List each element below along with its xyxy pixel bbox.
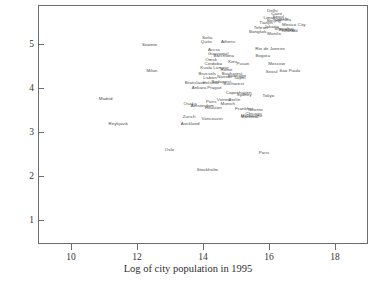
y-axis-tick-label: 4: [20, 83, 34, 93]
data-point-label: Milan: [146, 69, 157, 73]
data-point-label: Auckland: [181, 121, 200, 125]
data-point-label: Zurich: [183, 115, 196, 119]
data-point-label: Soweto: [142, 43, 157, 47]
data-point-label: Taipei: [234, 76, 246, 80]
data-point-label: Tokyo: [262, 94, 274, 98]
y-axis-tick-label: 3: [20, 127, 34, 137]
x-axis-tick-label: 12: [122, 252, 152, 262]
plot-data-area: DelhiCairoSeoulLimaKarachiBeijingCalcutt…: [39, 6, 367, 243]
y-axis-tick: [38, 132, 44, 133]
scatter-plot-figure: DelhiCairoSeoulLimaKarachiBeijingCalcutt…: [0, 0, 376, 282]
data-point-label: Madrid: [99, 97, 113, 101]
data-point-label: Sao Paulo: [279, 69, 300, 73]
x-axis-tick-label: 16: [254, 252, 284, 262]
data-point-label: Bucharest: [223, 82, 244, 86]
data-point-label: Moscow: [268, 62, 285, 66]
plot-frame: DelhiCairoSeoulLimaKarachiBeijingCalcutt…: [38, 5, 368, 244]
data-point-label: Paris: [259, 151, 269, 155]
x-axis-tick: [269, 244, 270, 250]
x-axis-tick: [137, 244, 138, 250]
data-point-label: Rio de Janeiro: [255, 46, 285, 50]
x-axis-tick-label: 10: [56, 252, 86, 262]
x-axis-tick-label: 18: [320, 252, 350, 262]
data-point-label: Bogota: [256, 54, 270, 58]
y-axis-tick: [38, 176, 44, 177]
x-axis-tick-label: 14: [188, 252, 218, 262]
data-point-label: Houston: [205, 106, 222, 110]
x-axis-title: Log of city population in 1995: [0, 263, 376, 274]
x-axis-tick: [203, 244, 204, 250]
data-point-label: Seoul: [266, 70, 278, 74]
y-axis-tick-label: 5: [20, 39, 34, 49]
data-point-label: Ankara: [192, 86, 206, 90]
data-point-label: Quito: [201, 39, 212, 43]
y-axis-tick-label: 1: [20, 215, 34, 225]
y-axis-tick: [38, 220, 44, 221]
y-axis-tick-label: 2: [20, 171, 34, 181]
data-point-label: Bangkok: [249, 30, 267, 34]
y-axis-tick: [38, 88, 44, 89]
data-point-label: Reykjavik: [108, 122, 128, 126]
x-axis-tick: [71, 244, 72, 250]
data-point-label: Athens: [221, 40, 235, 44]
data-point-label: Oslo: [165, 148, 174, 152]
data-point-label: Pusan: [236, 62, 249, 66]
x-axis-tick: [335, 244, 336, 250]
y-axis-tick: [38, 44, 44, 45]
data-point-label: Istanbul: [282, 29, 298, 33]
data-point-label: Manila: [267, 32, 280, 36]
data-point-label: Prague: [207, 86, 222, 90]
data-point-label: Munich: [220, 102, 235, 106]
data-point-label: Montreal: [241, 115, 259, 119]
data-point-label: Vancouver: [202, 117, 223, 121]
data-point-label: Stockholm: [197, 168, 218, 172]
